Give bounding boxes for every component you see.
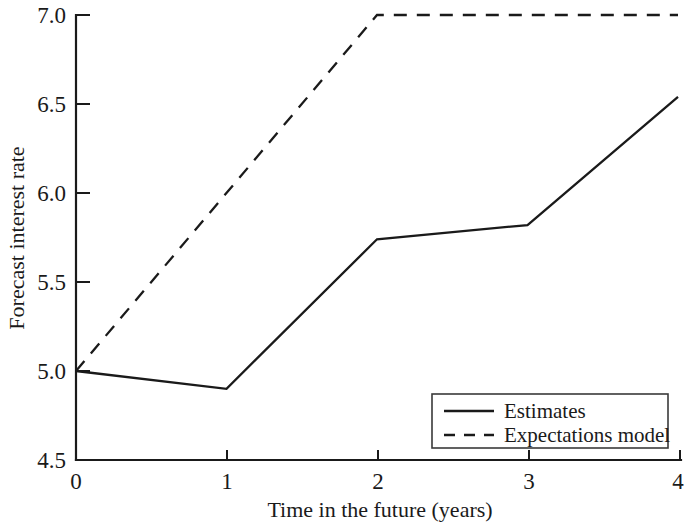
x-tick-label: 0: [70, 469, 82, 494]
x-tick-label: 3: [523, 469, 535, 494]
x-tick-label: 4: [672, 469, 684, 494]
x-axis-title: Time in the future (years): [267, 497, 492, 522]
y-tick-label: 6.0: [37, 181, 66, 206]
y-tick-label: 4.5: [37, 448, 66, 473]
y-tick-label: 5.0: [37, 359, 66, 384]
x-axis-ticks: [76, 450, 680, 460]
y-tick-label: 6.5: [37, 92, 66, 117]
chart-figure: 7.0 6.5 6.0 5.5 5.0 4.5 0 1 2 3 4 Time i…: [0, 0, 684, 524]
x-tick-label: 2: [372, 469, 384, 494]
y-tick-label: 7.0: [37, 3, 66, 28]
y-tick-labels: 7.0 6.5 6.0 5.5 5.0 4.5: [37, 3, 66, 473]
y-axis-title: Forecast interest rate: [4, 146, 29, 329]
x-tick-labels: 0 1 2 3 4: [70, 469, 684, 494]
legend-label-estimates: Estimates: [504, 399, 586, 423]
y-tick-label: 5.5: [37, 270, 66, 295]
line-chart: 7.0 6.5 6.0 5.5 5.0 4.5 0 1 2 3 4 Time i…: [0, 0, 684, 524]
x-tick-label: 1: [221, 469, 233, 494]
chart-legend: Estimates Expectations model: [432, 394, 670, 448]
legend-label-expectations-model: Expectations model: [504, 423, 670, 447]
series-line-estimates: [76, 97, 678, 389]
y-axis-ticks: [76, 15, 90, 460]
series-line-expectations-model: [76, 15, 678, 371]
